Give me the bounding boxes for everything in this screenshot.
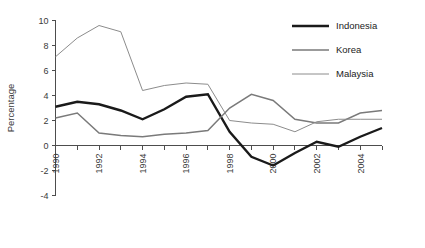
series-group (56, 26, 383, 166)
series-line-malaysia (56, 26, 383, 132)
x-tick-label: 2002 (312, 154, 322, 174)
legend-label-indonesia: Indonesia (336, 20, 378, 31)
x-axis: 19901992199419961998200020022004 (51, 146, 382, 174)
y-tick-label: 6 (43, 66, 48, 76)
y-tick-label: -4 (40, 191, 48, 201)
x-tick-label: 1994 (138, 154, 148, 174)
x-tick-group: 19901992199419961998200020022004 (51, 146, 382, 174)
chart-legend: IndonesiaKoreaMalaysia (292, 20, 378, 79)
y-tick-label: 2 (43, 116, 48, 126)
legend-label-malaysia: Malaysia (336, 68, 374, 79)
series-line-indonesia (56, 94, 383, 165)
y-axis-title: Percentage (5, 84, 16, 133)
line-chart: -4-20246810 1990199219941996199820002002… (0, 0, 425, 248)
y-tick-label: 4 (43, 91, 48, 101)
x-tick-label: 1992 (94, 154, 104, 174)
x-tick-label: 2004 (356, 154, 366, 174)
x-tick-label: 1990 (51, 154, 61, 174)
y-tick-label: 8 (43, 41, 48, 51)
legend-label-korea: Korea (336, 44, 362, 55)
x-tick-label: 1998 (225, 154, 235, 174)
y-tick-label: -2 (40, 166, 48, 176)
series-line-korea (56, 94, 383, 137)
x-tick-label: 1996 (181, 154, 191, 174)
y-tick-label: 10 (38, 16, 48, 26)
y-tick-label: 0 (43, 141, 48, 151)
chart-container: -4-20246810 1990199219941996199820002002… (0, 0, 425, 248)
